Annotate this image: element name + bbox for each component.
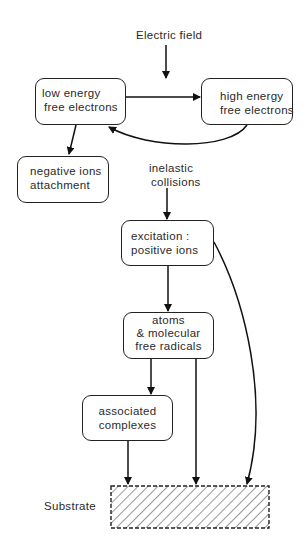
label-text: inelastic (149, 161, 201, 175)
excitation-to-substrate-arrow (214, 242, 256, 484)
node-text: free electrons (42, 100, 125, 114)
inelastic-collisions-label: inelastic collisions (149, 161, 201, 189)
node-text: positive ions (131, 243, 213, 257)
node-text: negative ions (30, 164, 108, 178)
node-text: attachment (30, 178, 108, 192)
node-negative-ions-attachment: negative ions attachment (17, 156, 109, 203)
node-associated-complexes: associated complexes (82, 395, 173, 441)
node-text: free radicals (124, 340, 213, 353)
node-excitation-positive-ions: excitation : positive ions (121, 220, 214, 266)
low-to-negative-arrow (69, 125, 76, 154)
node-high-energy-free-electrons: high energy free electrons (201, 78, 293, 125)
node-atoms-molecular-free-radicals: atoms & molecular free radicals (123, 312, 214, 359)
node-text: & molecular (124, 327, 213, 340)
node-text: high energy (220, 89, 292, 103)
node-text: excitation : (131, 229, 213, 243)
node-text: atoms (124, 314, 213, 327)
electric-field-label: Electric field (136, 28, 202, 42)
substrate-block (111, 486, 269, 528)
high-to-low-arrow (109, 125, 247, 144)
substrate-label: Substrate (44, 499, 96, 513)
node-text: complexes (83, 418, 172, 432)
node-text: associated (83, 404, 172, 418)
node-text: low energy (42, 86, 125, 100)
node-low-energy-free-electrons: low energy free electrons (35, 78, 126, 125)
node-text: free electrons (220, 103, 292, 117)
label-text: collisions (149, 175, 201, 189)
